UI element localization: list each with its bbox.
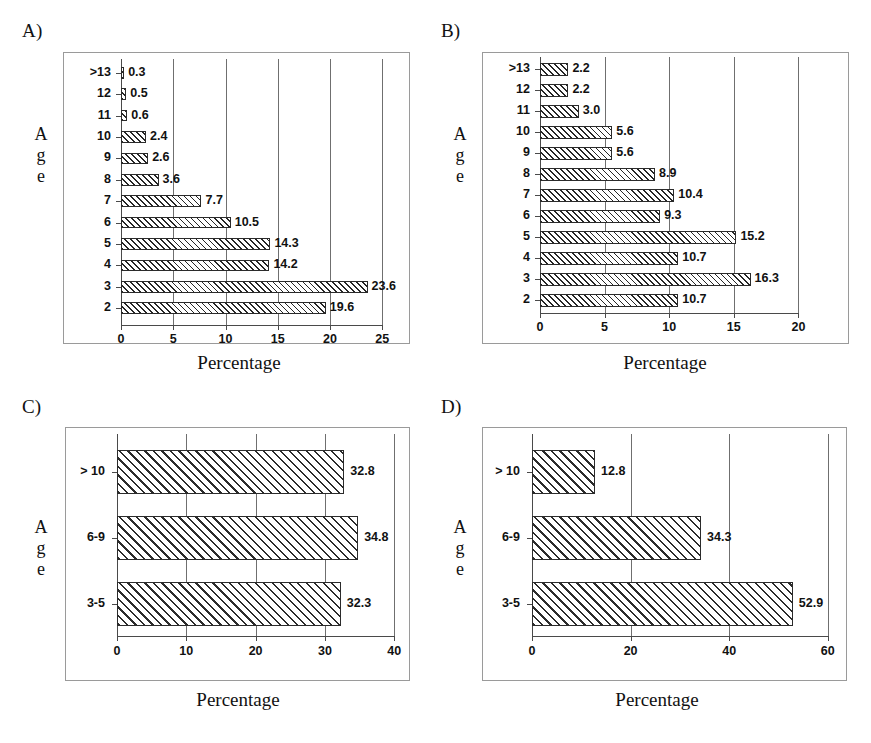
x-tick-label-20: 20 xyxy=(611,644,651,658)
value-label: 34.3 xyxy=(707,530,731,544)
x-tick-label-5: 5 xyxy=(153,332,193,346)
x-axis-line xyxy=(117,636,394,637)
bar xyxy=(117,582,341,626)
bar xyxy=(121,217,231,229)
bar xyxy=(121,302,326,314)
bar xyxy=(540,147,612,160)
bar xyxy=(117,516,358,560)
panel-d-letter: D) xyxy=(441,396,461,418)
value-label: 2.2 xyxy=(572,82,589,96)
x-axis-line xyxy=(532,636,828,637)
bar xyxy=(121,260,269,272)
panel-a-plot-frame: 0510152025>130.3120.5110.6102.492.683.67… xyxy=(63,52,410,344)
value-label: 7.7 xyxy=(205,193,222,207)
figure-panel-grid: A) A g e 0510152025>130.3120.5110.6102.4… xyxy=(0,0,871,743)
value-label: 52.9 xyxy=(799,596,823,610)
age-letter-g: g xyxy=(30,538,52,559)
value-label: 19.6 xyxy=(330,300,354,314)
age-letter-e: e xyxy=(30,166,52,187)
bar xyxy=(540,294,678,307)
age-letter-e: e xyxy=(449,559,471,580)
category-label: 7 xyxy=(59,193,111,207)
value-label: 2.2 xyxy=(572,61,589,75)
category-label: 6 xyxy=(478,208,530,222)
category-label: > 10 xyxy=(55,464,105,478)
x-tick-20 xyxy=(798,313,799,318)
value-label: 2.4 xyxy=(150,129,167,143)
x-tick-60 xyxy=(828,636,829,641)
bar xyxy=(532,582,793,626)
x-tick-label-15: 15 xyxy=(714,320,754,334)
value-label: 10.7 xyxy=(682,292,706,306)
panel-d-plot-frame: 0204060> 1012.86-934.33-552.9 xyxy=(482,427,847,681)
category-label: 2 xyxy=(478,292,530,306)
panel-a-y-axis-title: A g e xyxy=(30,124,52,187)
value-label: 16.3 xyxy=(755,271,779,285)
bar xyxy=(532,450,595,494)
bar xyxy=(121,195,201,207)
category-label: 5 xyxy=(478,229,530,243)
value-label: 2.6 xyxy=(152,150,169,164)
value-label: 0.3 xyxy=(128,65,145,79)
bar xyxy=(121,88,126,100)
age-letter-e: e xyxy=(449,166,471,187)
category-label: 9 xyxy=(59,150,111,164)
panel-b-y-axis-title: A g e xyxy=(449,124,471,187)
age-letter-a: A xyxy=(30,517,52,538)
x-tick-label-15: 15 xyxy=(258,332,298,346)
category-label: 3-5 xyxy=(55,596,105,610)
gridline-40 xyxy=(394,434,395,636)
x-tick-25 xyxy=(382,325,383,330)
panel-a-letter: A) xyxy=(22,20,42,42)
bar xyxy=(117,450,344,494)
panel-c-y-axis-title: A g e xyxy=(30,517,52,580)
panel-d-x-axis-title: Percentage xyxy=(562,689,752,711)
age-letter-g: g xyxy=(449,145,471,166)
x-tick-label-0: 0 xyxy=(520,320,560,334)
panel-c-x-axis-title: Percentage xyxy=(143,689,333,711)
value-label: 0.6 xyxy=(131,108,148,122)
x-tick-40 xyxy=(394,636,395,641)
category-label: 8 xyxy=(59,172,111,186)
bar xyxy=(532,516,701,560)
gridline-60 xyxy=(828,434,829,636)
panel-d-y-axis-title: A g e xyxy=(449,517,471,580)
x-tick-label-10: 10 xyxy=(649,320,689,334)
bar xyxy=(540,84,568,97)
bar xyxy=(121,238,270,250)
bar xyxy=(540,189,674,202)
x-tick-label-25: 25 xyxy=(362,332,402,346)
age-letter-a: A xyxy=(449,124,471,145)
category-label: 12 xyxy=(478,82,530,96)
panel-b-x-axis-title: Percentage xyxy=(570,352,760,374)
x-tick-label-10: 10 xyxy=(206,332,246,346)
value-label: 5.6 xyxy=(616,145,633,159)
value-label: 15.2 xyxy=(740,229,764,243)
category-label: 9 xyxy=(478,145,530,159)
category-label: 3 xyxy=(59,279,111,293)
category-label: 10 xyxy=(59,129,111,143)
category-label: 4 xyxy=(59,257,111,271)
category-label: 6 xyxy=(59,215,111,229)
value-label: 34.8 xyxy=(364,530,388,544)
category-label: 4 xyxy=(478,250,530,264)
category-label: 3-5 xyxy=(470,596,520,610)
x-tick-label-60: 60 xyxy=(808,644,848,658)
value-label: 32.8 xyxy=(350,464,374,478)
value-label: 23.6 xyxy=(372,279,396,293)
category-label: >13 xyxy=(478,61,530,75)
category-label: 11 xyxy=(59,108,111,122)
panel-d-plot-area: 0204060> 1012.86-934.33-552.9 xyxy=(483,428,846,680)
value-label: 10.4 xyxy=(678,187,702,201)
age-letter-g: g xyxy=(449,538,471,559)
panel-b-plot-area: 05101520>132.2122.2113.0105.695.688.9710… xyxy=(483,53,848,343)
value-label: 3.0 xyxy=(583,103,600,117)
bar xyxy=(540,210,660,223)
bar xyxy=(540,126,612,139)
panel-c-letter: C) xyxy=(22,396,41,418)
value-label: 8.9 xyxy=(659,166,676,180)
category-label: 3 xyxy=(478,271,530,285)
gridline-20 xyxy=(798,57,799,313)
category-label: 7 xyxy=(478,187,530,201)
value-label: 10.7 xyxy=(682,250,706,264)
